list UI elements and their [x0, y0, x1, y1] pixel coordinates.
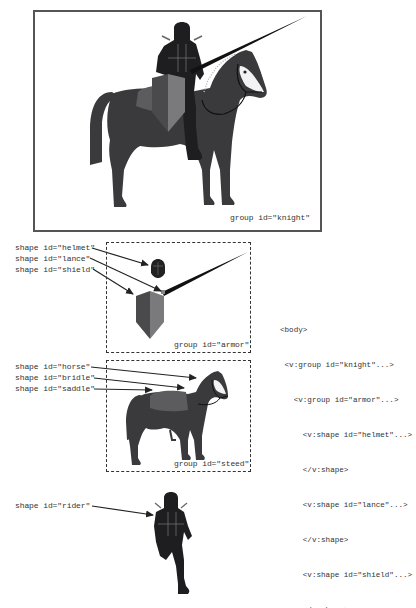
bridle-shape-label: shape id="bridle"	[15, 373, 95, 383]
saddle-shape-label: shape id="saddle"	[15, 384, 95, 394]
steed-group-label: group id="steed"	[174, 459, 249, 469]
knight-group-label: group id="knight"	[230, 213, 310, 223]
rider-arrow	[92, 506, 153, 515]
composite-knight-illustration	[90, 16, 307, 207]
armor-group-box	[106, 242, 251, 353]
code-line: <v:shape id="shield"...>	[280, 570, 412, 582]
code-line: <v:group id="armor"...>	[280, 395, 412, 407]
shield-shape-label: shape id="shield"	[15, 265, 95, 275]
lance-shape-label: shape id="lance"	[15, 254, 90, 264]
code-line: <v:shape id="helmet"...>	[280, 430, 412, 442]
code-line: </v:shape>	[280, 465, 412, 477]
vml-code-listing: <body> <v:group id="knight"...> <v:group…	[280, 302, 412, 608]
code-line: <body>	[280, 325, 412, 337]
code-line: <v:shape id="lance"...>	[280, 500, 412, 512]
armor-group-label: group id="armor"	[174, 340, 249, 350]
code-line: <v:group id="knight"...>	[280, 360, 412, 372]
horse-shape-label: shape id="horse"	[15, 362, 90, 372]
steed-group-box	[106, 360, 251, 472]
rider-shape-label: shape id="rider"	[15, 501, 90, 511]
rider-piece-illustration	[154, 492, 192, 594]
helmet-shape-label: shape id="helmet"	[15, 243, 95, 253]
code-line: </v:shape>	[280, 535, 412, 547]
